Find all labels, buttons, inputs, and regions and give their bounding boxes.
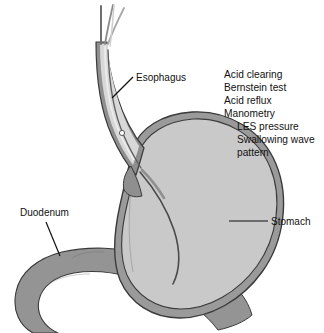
label-duodenum: Duodenum	[20, 207, 69, 218]
test-list-item: Acid clearing	[224, 69, 283, 80]
test-list-subitem: Swallowing wave	[237, 134, 315, 145]
test-list: Acid clearing Bernstein test Acid reflux…	[224, 69, 315, 158]
test-list-item: Acid reflux	[224, 95, 272, 106]
pressure-sensor	[119, 130, 124, 135]
test-list-subitem: pattern	[237, 147, 269, 158]
esophagus-leader-line	[112, 77, 133, 98]
test-list-subitem: LES pressure	[237, 121, 299, 132]
label-stomach: Stomach	[271, 216, 310, 227]
test-list-item: Bernstein test	[224, 82, 286, 93]
catheter-bundle	[101, 5, 124, 46]
anatomy-illustration: Esophagus Duodenum Stomach Acid clearing…	[0, 0, 324, 333]
duodenum-leader-line	[46, 222, 60, 256]
test-list-item: Manometry	[224, 108, 276, 119]
label-esophagus: Esophagus	[136, 72, 186, 83]
anatomy-diagram: Esophagus Duodenum Stomach Acid clearing…	[0, 0, 324, 333]
